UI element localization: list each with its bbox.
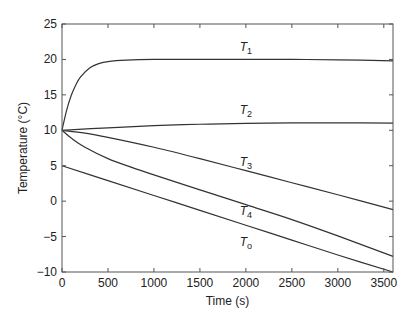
x-tick-label: 1500 <box>187 276 214 290</box>
series-line-t2 <box>62 123 393 130</box>
y-tick-label: −5 <box>43 230 57 244</box>
y-axis-title: Temperature (°C) <box>16 102 30 194</box>
series-label-t3: T3 <box>240 155 252 171</box>
x-tick-label: 0 <box>59 276 66 290</box>
series-labels: T1T2T3T4To <box>240 40 252 251</box>
series-line-t4 <box>62 130 393 256</box>
x-tick-label: 2000 <box>233 276 260 290</box>
x-tick-label: 500 <box>98 276 118 290</box>
y-tick-label: 25 <box>44 17 58 31</box>
x-tick-labels: 0500100015002000250030003500 <box>59 276 398 290</box>
x-tick-label: 1000 <box>141 276 168 290</box>
series-label-t1: T1 <box>240 40 252 56</box>
series-line-t3 <box>62 130 393 209</box>
series-line-t1 <box>62 59 393 130</box>
y-tick-labels: −10−50510152025 <box>37 17 58 279</box>
series-curves <box>62 59 393 272</box>
temperature-chart: 0500100015002000250030003500 −10−5051015… <box>0 0 413 314</box>
y-tick-label: 10 <box>44 123 58 137</box>
y-tick-label: 5 <box>50 159 57 173</box>
x-tick-label: 3000 <box>324 276 351 290</box>
x-tick-label: 3500 <box>370 276 397 290</box>
series-line-to <box>62 166 393 272</box>
series-label-to: To <box>240 235 252 251</box>
x-axis-title: Time (s) <box>206 294 250 308</box>
y-tick-label: 0 <box>50 194 57 208</box>
y-tick-label: 20 <box>44 52 58 66</box>
series-label-t2: T2 <box>240 103 252 119</box>
y-tick-label: −10 <box>37 265 58 279</box>
x-tick-label: 2500 <box>279 276 306 290</box>
y-tick-label: 15 <box>44 88 58 102</box>
